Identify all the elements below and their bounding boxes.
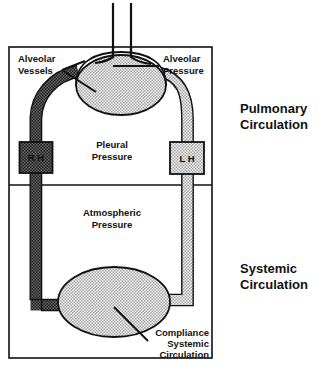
svg-text:Compliance: Compliance bbox=[155, 327, 209, 338]
svg-text:Vessels: Vessels bbox=[18, 65, 53, 76]
svg-text:Systemic: Systemic bbox=[167, 338, 209, 349]
systemic-compliance-vessel bbox=[58, 267, 170, 337]
diagram-figure: R H L H Alveolar Vessels Alveolar Pre bbox=[0, 0, 324, 371]
svg-text:Pressure: Pressure bbox=[92, 151, 133, 162]
pulmonary-circulation-label: Pulmonary Circulation bbox=[240, 101, 308, 132]
left-heart-box: L H bbox=[170, 142, 204, 174]
right-heart-label: R H bbox=[28, 152, 45, 163]
svg-text:Systemic: Systemic bbox=[240, 261, 297, 276]
svg-text:Alveolar: Alveolar bbox=[163, 53, 201, 64]
alveolar-compartment bbox=[76, 52, 166, 115]
pleural-pressure-label: Pleural Pressure bbox=[92, 139, 133, 162]
alveolar-pressure-label: Alveolar Pressure bbox=[163, 53, 204, 76]
left-heart-label: L H bbox=[179, 153, 194, 164]
svg-text:Atmospheric: Atmospheric bbox=[83, 207, 141, 218]
circulation-diagram: R H L H Alveolar Vessels Alveolar Pre bbox=[0, 0, 324, 371]
svg-text:Pressure: Pressure bbox=[92, 219, 133, 230]
svg-text:Circulation: Circulation bbox=[240, 117, 308, 132]
svg-text:Circulation: Circulation bbox=[159, 349, 209, 360]
atmospheric-pressure-label: Atmospheric Pressure bbox=[83, 207, 141, 230]
svg-text:Alveolar: Alveolar bbox=[18, 53, 56, 64]
svg-text:Pulmonary: Pulmonary bbox=[240, 101, 308, 116]
alveolar-vessels-label: Alveolar Vessels bbox=[18, 53, 56, 76]
svg-text:Circulation: Circulation bbox=[240, 277, 308, 292]
svg-text:Pleural: Pleural bbox=[96, 139, 128, 150]
svg-text:Pressure: Pressure bbox=[163, 65, 204, 76]
right-heart-box: R H bbox=[20, 142, 53, 173]
